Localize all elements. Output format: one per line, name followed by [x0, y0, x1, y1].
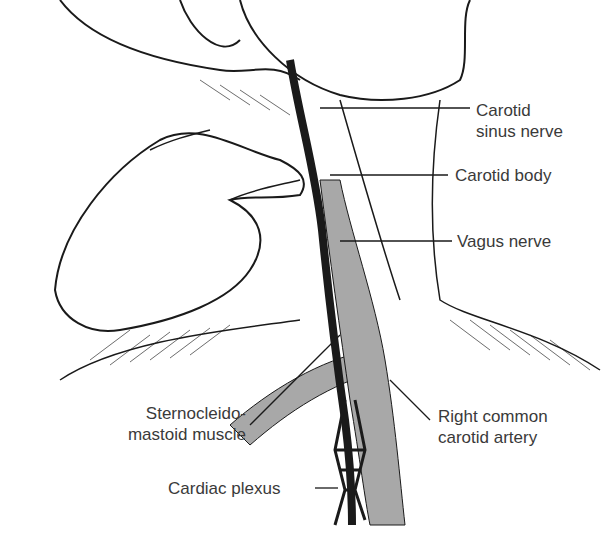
label-line: Sternocleido- [100, 403, 246, 424]
label-cardiac-plexus: Cardiac plexus [168, 478, 280, 499]
label-line: carotid artery [438, 427, 548, 448]
neck-anatomy-illustration [0, 0, 614, 546]
label-line: sinus nerve [476, 121, 563, 142]
label-right-common-carotid-artery: Right common carotid artery [438, 406, 548, 448]
label-line: mastoid muscle [100, 424, 246, 445]
label-line: Right common [438, 406, 548, 427]
label-carotid-body: Carotid body [455, 165, 551, 186]
label-carotid-sinus-nerve: Carotid sinus nerve [476, 100, 563, 142]
label-vagus-nerve: Vagus nerve [457, 231, 551, 252]
label-line: Carotid [476, 100, 563, 121]
label-sternocleidomastoid-muscle: Sternocleido- mastoid muscle [100, 403, 246, 445]
